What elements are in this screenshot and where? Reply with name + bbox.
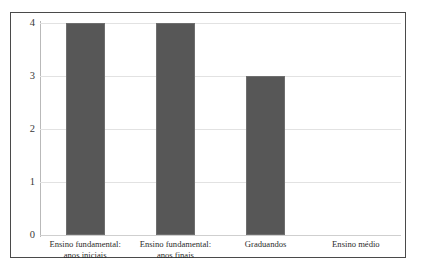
x-axis-category-labels: Ensino fundamental:anos iniciaisEnsino f… xyxy=(40,239,401,269)
bar-1 xyxy=(156,23,195,235)
y-tick-label-0: 0 xyxy=(19,230,35,241)
x-tick-label-2-line-0: Graduandos xyxy=(221,239,311,250)
y-tick-label-2: 2 xyxy=(19,124,35,135)
x-tick-label-1-line-0: Ensino fundamental: xyxy=(130,239,220,250)
y-tick-label-4: 4 xyxy=(19,18,35,29)
x-tick-label-0-line-0: Ensino fundamental: xyxy=(40,239,130,250)
x-tick-label-2: Graduandos xyxy=(221,239,311,250)
x-tick-label-1: Ensino fundamental:anos finais xyxy=(130,239,220,261)
x-tick-label-3: Ensino médio xyxy=(311,239,401,250)
chart-title-fragment xyxy=(0,0,423,3)
x-tick-label-0: Ensino fundamental:anos iniciais xyxy=(40,239,130,261)
y-tick-label-1: 1 xyxy=(19,177,35,188)
bar-chart-figure: 01234 Ensino fundamental:anos iniciaisEn… xyxy=(0,0,423,275)
gridline-0 xyxy=(40,235,401,236)
x-tick-label-0-line-1: anos iniciais xyxy=(40,250,130,261)
y-tick-label-3: 3 xyxy=(19,71,35,82)
bar-0 xyxy=(66,23,105,235)
plot-area xyxy=(40,23,401,235)
x-tick-label-3-line-0: Ensino médio xyxy=(311,239,401,250)
chart-frame: 01234 Ensino fundamental:anos iniciaisEn… xyxy=(10,12,406,258)
y-axis-tick-labels: 01234 xyxy=(17,23,35,235)
x-tick-label-1-line-1: anos finais xyxy=(130,250,220,261)
bar-2 xyxy=(246,76,285,235)
